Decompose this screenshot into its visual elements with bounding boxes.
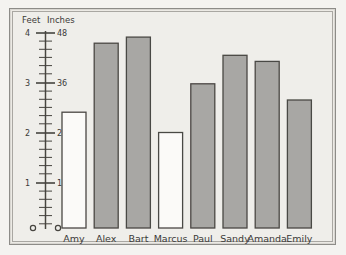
bar-bart[interactable] (126, 37, 150, 228)
bar-amy[interactable] (62, 112, 86, 228)
axis-header-inches: Inches (47, 15, 75, 25)
bar-label-sandy: Sandy (220, 233, 250, 244)
tick-label-inches-48: 48 (57, 29, 67, 38)
bar-paul[interactable] (191, 84, 215, 228)
bar-labels-group: AmyAlexBartMarcusPaulSandyAmandaEmily (63, 233, 313, 244)
tick-label-feet-2: 2 (25, 129, 30, 138)
bars-group (62, 37, 311, 228)
chart-screenshot: Feet Inches 4 48 3 36 2 24 1 12 AmyAlexB… (0, 0, 346, 255)
bar-label-marcus: Marcus (154, 233, 188, 244)
tick-label-inches-36: 36 (57, 79, 67, 88)
tick-label-feet-4: 4 (25, 29, 30, 38)
tick-label-feet-1: 1 (25, 179, 30, 188)
bar-label-bart: Bart (128, 233, 148, 244)
bar-label-alex: Alex (96, 233, 117, 244)
tick-label-feet-3: 3 (25, 79, 30, 88)
bar-label-paul: Paul (193, 233, 213, 244)
bar-sandy[interactable] (223, 55, 247, 228)
bar-emily[interactable] (287, 100, 311, 228)
bar-marcus[interactable] (159, 133, 183, 229)
bar-label-amanda: Amanda (247, 233, 286, 244)
bar-label-amy: Amy (63, 233, 85, 244)
bar-chart-svg: Feet Inches 4 48 3 36 2 24 1 12 AmyAlexB… (0, 0, 346, 255)
chart-plot-area: Feet Inches 4 48 3 36 2 24 1 12 AmyAlexB… (0, 0, 346, 255)
bar-amanda[interactable] (255, 61, 279, 228)
axis-header-feet: Feet (22, 15, 41, 25)
bar-label-emily: Emily (286, 233, 313, 244)
bar-alex[interactable] (94, 43, 118, 228)
